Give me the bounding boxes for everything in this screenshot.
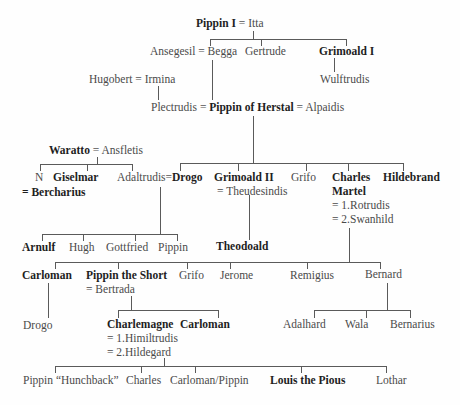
person-bernarius-label: Bernarius xyxy=(390,318,435,330)
person-carloman-label: Carloman xyxy=(22,269,72,281)
person-carloman-pippin: Carloman/Pippin xyxy=(170,374,249,387)
person-hugobert: Hugobert xyxy=(89,73,132,85)
person-lothar-label: Lothar xyxy=(376,374,407,386)
couple-ansegesil-begga: Ansegesil = Begga xyxy=(150,45,237,58)
person-pippin-son-of-drogo: Pippin xyxy=(158,241,188,254)
person-pippin-the-short: Pippin the Short xyxy=(86,269,167,282)
person-irmina: Irmina xyxy=(145,73,176,85)
person-bernarius: Bernarius xyxy=(390,318,435,331)
person-wala: Wala xyxy=(345,318,368,331)
person-adaltrudis: Adaltrudis xyxy=(117,171,166,183)
person-arnulf: Arnulf xyxy=(22,241,55,254)
person-charles-martel-line2: Martel xyxy=(332,185,366,198)
person-giselmar-label: Giselmar xyxy=(53,171,98,183)
person-gottfried: Gottfried xyxy=(106,241,148,254)
marriage-sign: = xyxy=(200,101,207,113)
spouse-himiltrudis: = 1.Himiltrudis xyxy=(107,332,178,345)
person-gertrude-label: Gertrude xyxy=(245,45,286,57)
person-carloman-2: Carloman xyxy=(180,318,230,331)
person-charlemagne: Charlemagne xyxy=(107,318,173,331)
person-grimoald-i-label: Grimoald I xyxy=(319,45,374,57)
marriage-sign: = xyxy=(198,45,205,57)
person-n: N xyxy=(35,171,43,184)
person-carloman-2-label: Carloman xyxy=(180,318,230,330)
person-pippin-label: Pippin xyxy=(158,241,188,253)
couple-hugobert-irmina: Hugobert = Irmina xyxy=(89,73,175,86)
person-remigius-label: Remigius xyxy=(290,269,334,281)
spouse-bercharius: = Bercharius xyxy=(22,186,86,199)
person-wulftrudis-label: Wulftrudis xyxy=(320,73,369,85)
person-wala-label: Wala xyxy=(345,318,368,330)
person-pippin-i: Pippin I xyxy=(196,17,236,29)
person-drogo-2-label: Drogo xyxy=(23,319,52,331)
person-pippin-hunchback: Pippin “Hunchback” xyxy=(23,374,119,387)
person-wulftrudis: Wulftrudis xyxy=(320,73,369,86)
person-drogo-2: Drogo xyxy=(23,319,52,332)
marriage-sign: = xyxy=(239,17,246,29)
person-grifo-2: Grifo xyxy=(179,269,204,282)
person-grifo: Grifo xyxy=(291,171,316,184)
person-hugh: Hugh xyxy=(69,241,95,254)
person-giselmar: Giselmar xyxy=(53,171,98,184)
marriage-sign: = xyxy=(93,144,100,156)
person-adalhard: Adalhard xyxy=(283,318,326,331)
person-drogo: Drogo xyxy=(172,171,202,183)
person-charles-the-younger: Charles xyxy=(126,374,161,387)
marriage-sign: = xyxy=(296,101,303,113)
person-remigius: Remigius xyxy=(290,269,334,282)
spouse-hildegard: = 2.Hildegard xyxy=(107,346,171,359)
person-ansfletis: Ansfletis xyxy=(102,144,144,156)
person-hugh-label: Hugh xyxy=(69,241,95,253)
person-alpaidis: Alpaidis xyxy=(305,101,344,113)
person-lothar: Lothar xyxy=(376,374,407,387)
person-ansegesil: Ansegesil xyxy=(150,45,195,57)
family-tree-diagram: Pippin I = Itta Ansegesil = Begga Gertru… xyxy=(0,0,460,405)
person-bernard-label: Bernard xyxy=(365,268,402,280)
couple-pippin-i-itta: Pippin I = Itta xyxy=(196,17,264,30)
person-charles-martel-line1: Charles xyxy=(332,171,370,184)
person-grimoald-ii: Grimoald II xyxy=(214,171,274,184)
person-theodoald-label: Theodoald xyxy=(216,240,268,252)
person-charles-label: Charles xyxy=(126,374,161,386)
couple-pippin-of-herstal: Plectrudis = Pippin of Herstal = Alpaidi… xyxy=(151,101,344,114)
person-grifo-2-label: Grifo xyxy=(179,269,204,281)
connector-lines xyxy=(0,0,460,405)
person-gottfried-label: Gottfried xyxy=(106,241,148,253)
person-adalhard-label: Adalhard xyxy=(283,318,326,330)
person-jerome-label: Jerome xyxy=(220,269,253,281)
person-jerome: Jerome xyxy=(220,269,253,282)
couple-adaltrudis-drogo: Adaltrudis=Drogo xyxy=(117,171,203,184)
person-plectrudis: Plectrudis xyxy=(151,101,197,113)
person-waratto: Waratto xyxy=(49,144,90,156)
person-pippin-the-short-label: Pippin the Short xyxy=(86,269,167,281)
marriage-sign: = xyxy=(135,73,142,85)
spouse-rotrudis: = 1.Rotrudis xyxy=(332,199,390,212)
person-bernard: Bernard xyxy=(365,268,402,281)
person-itta: Itta xyxy=(248,17,263,29)
person-n-label: N xyxy=(35,171,43,183)
spouse-bertrada: = Bertrada xyxy=(86,283,135,296)
person-grifo-label: Grifo xyxy=(291,171,316,183)
person-gertrude: Gertrude xyxy=(245,45,286,58)
person-begga: Begga xyxy=(208,45,237,57)
spouse-swanhild: = 2.Swanhild xyxy=(332,213,393,226)
person-hildebrand-label: Hildebrand xyxy=(383,171,440,183)
person-grimoald-ii-label: Grimoald II xyxy=(214,171,274,183)
person-grimoald-i: Grimoald I xyxy=(319,45,374,58)
person-louis-the-pious-label: Louis the Pious xyxy=(270,374,345,386)
person-pippin-hunchback-label: Pippin “Hunchback” xyxy=(23,374,119,386)
person-louis-the-pious: Louis the Pious xyxy=(270,374,345,387)
person-carloman: Carloman xyxy=(22,269,72,282)
person-hildebrand: Hildebrand xyxy=(383,171,440,184)
person-carloman-pippin-label: Carloman/Pippin xyxy=(170,374,249,386)
couple-waratto-ansfletis: Waratto = Ansfletis xyxy=(49,144,143,157)
person-charlemagne-label: Charlemagne xyxy=(107,318,173,330)
person-pippin-of-herstal: Pippin of Herstal xyxy=(209,101,293,113)
person-arnulf-label: Arnulf xyxy=(22,241,55,253)
spouse-theudesindis: = Theudesindis xyxy=(217,185,287,198)
person-theodoald: Theodoald xyxy=(216,240,268,253)
